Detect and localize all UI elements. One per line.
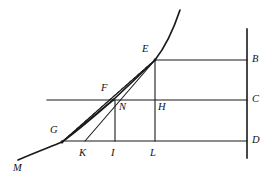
point-label-m: M — [13, 163, 22, 174]
geometric-diagram: B C D E F G N H K I L M — [0, 0, 272, 181]
chord-ge — [62, 60, 155, 142]
point-label-c: C — [252, 94, 259, 105]
point-label-k: K — [79, 148, 86, 159]
point-label-n: N — [119, 102, 126, 113]
curve-mgfe — [18, 10, 180, 160]
diagram-canvas — [0, 0, 272, 181]
point-label-l: L — [150, 148, 156, 159]
point-marker-e — [154, 59, 157, 62]
point-marker-g — [61, 141, 64, 144]
point-label-g: G — [50, 125, 58, 136]
point-label-d: D — [252, 135, 260, 146]
point-label-f: F — [101, 83, 107, 94]
point-label-e: E — [142, 44, 148, 55]
point-label-b: B — [252, 54, 258, 65]
chords-group — [62, 60, 155, 142]
point-marker-f — [112, 99, 115, 102]
point-label-i: I — [111, 148, 115, 159]
point-label-h: H — [158, 102, 166, 113]
curve-group — [18, 10, 180, 160]
